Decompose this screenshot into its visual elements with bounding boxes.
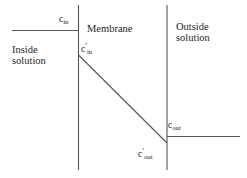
c-in-subscript: in bbox=[63, 18, 68, 25]
c-out-prime-subscript: out bbox=[144, 153, 153, 160]
membrane-concentration-diagram: Inside solution Membrane Outside solutio… bbox=[0, 0, 247, 178]
c-out-label: cout bbox=[168, 121, 181, 131]
inside-solution-label-line2: solution bbox=[12, 55, 46, 66]
inside-solution-label: Inside solution bbox=[12, 44, 46, 66]
c-in-prime-subscript: in bbox=[87, 48, 92, 55]
inside-solution-label-line1: Inside bbox=[12, 44, 46, 55]
c-out-subscript: out bbox=[172, 124, 181, 131]
c-in-label: cin bbox=[59, 15, 69, 25]
c-in-prime-label: c′in bbox=[81, 45, 92, 55]
c-out-prime-label: c′out bbox=[138, 150, 153, 160]
outside-solution-label: Outside solution bbox=[176, 21, 210, 43]
outside-solution-label-line2: solution bbox=[176, 32, 210, 43]
membrane-label: Membrane bbox=[87, 23, 132, 34]
outside-solution-label-line1: Outside bbox=[176, 21, 210, 32]
membrane-gradient-line bbox=[79, 55, 168, 143]
